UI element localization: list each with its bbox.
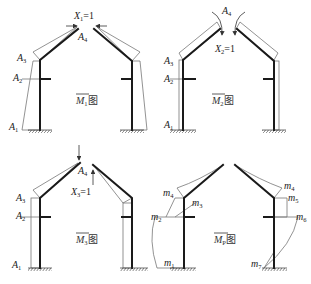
moment-label-m2: m2 (151, 211, 161, 223)
node-label-a1: A1 (163, 119, 173, 131)
panel-m3: A4 X3=1 A3 A2 A1 M3图 (11, 145, 148, 271)
moment-diagrams-figure: X1=1 A4 A3 A2 A1 M1图 (0, 0, 311, 284)
node-label-a1: A1 (11, 259, 21, 271)
node-label-a4: A4 (77, 165, 88, 177)
fixed-support-icon (170, 268, 287, 271)
fixed-support-icon (28, 130, 144, 133)
moment-label-m4-right: m4 (284, 180, 295, 192)
svg-text:MP图: MP图 (213, 234, 236, 246)
node-label-a3: A3 (163, 55, 173, 67)
moment-label-m3: m3 (192, 197, 202, 209)
load-label: X3=1 (70, 186, 91, 198)
node-label-a2: A2 (163, 73, 173, 85)
moment-label-m6: m6 (296, 211, 307, 223)
moment-label-m5: m5 (288, 192, 298, 204)
fixed-support-icon (170, 130, 286, 133)
node-label-a1: A1 (8, 121, 18, 133)
panel-mp: m4 m3 m2 m1 m4 m5 m6 m7 MP图 (151, 165, 307, 271)
svg-text:M2图: M2图 (211, 95, 234, 107)
node-label-a4: A4 (77, 31, 88, 43)
moment-label-m7: m7 (251, 258, 262, 270)
panel-title-m2: M2图 (211, 94, 234, 107)
node-label-a4: A4 (221, 5, 232, 17)
node-label-a3: A3 (15, 192, 25, 204)
frame-m1 (40, 29, 132, 130)
moment-diagram-mp (152, 165, 298, 268)
moment-label-m4-left: m4 (163, 187, 174, 199)
node-label-a3: A3 (16, 52, 26, 64)
svg-text:M1图: M1图 (75, 95, 98, 107)
panel-title-m3: M3图 (75, 233, 98, 246)
load-label: X2=1 (214, 43, 235, 55)
panel-title-mp: MP图 (213, 233, 236, 246)
moment-diagram-m2 (170, 22, 279, 130)
node-label-a2: A2 (12, 72, 22, 84)
svg-text:M3图: M3图 (75, 234, 98, 246)
frame-mp (184, 165, 274, 268)
fixed-support-icon (28, 268, 148, 271)
panel-title-m1: M1图 (75, 94, 98, 107)
node-label-a2: A2 (15, 210, 25, 222)
panel-m2: A4 X2=1 A3 A2 A1 M2图 (163, 5, 286, 133)
load-label: X1=1 (73, 10, 94, 22)
frame-m3 (40, 163, 132, 268)
panel-m1: X1=1 A4 A3 A2 A1 M1图 (8, 10, 147, 133)
moment-diagram-m3 (20, 163, 132, 268)
moment-label-m1: m1 (164, 257, 174, 269)
